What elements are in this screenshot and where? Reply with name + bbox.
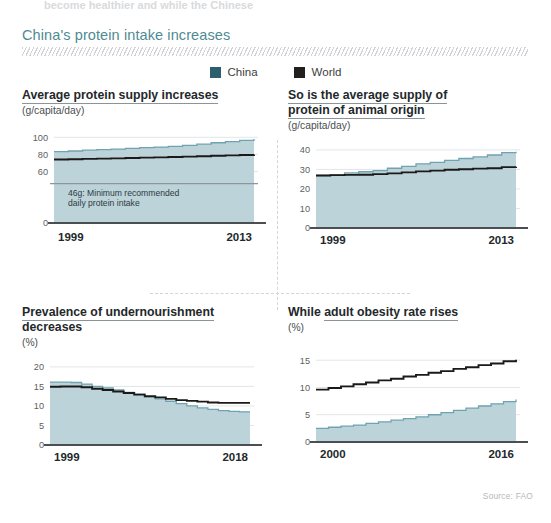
plot-area-undernourishment: 0510152019992018 <box>22 355 272 467</box>
legend-swatch-world <box>294 67 305 78</box>
plot-svg-animal-protein: 01020304019992013 <box>288 138 538 250</box>
chart-title-undernourishment: Prevalence of undernourishment decreases <box>22 305 272 335</box>
svg-text:10: 10 <box>300 383 310 393</box>
infographic-page: become healthier and while the Chinese C… <box>0 0 551 523</box>
source-note: Source: FAO <box>483 491 533 501</box>
svg-text:80: 80 <box>38 150 48 160</box>
clipped-headline-remnant: become healthier and while the Chinese <box>44 0 344 9</box>
svg-text:2013: 2013 <box>488 234 514 246</box>
legend-swatch-china <box>210 67 221 78</box>
chart-title-protein-supply: Average protein supply increases <box>22 88 272 103</box>
svg-text:0: 0 <box>305 223 310 233</box>
legend-label-china: China <box>228 66 258 78</box>
legend: China World <box>0 64 551 80</box>
page-title: China's protein intake increases <box>22 27 230 43</box>
legend-item-world: World <box>294 66 342 78</box>
chart-title-obesity: While adult obesity rate rises <box>288 305 538 320</box>
svg-text:1999: 1999 <box>58 231 84 243</box>
chart-units-protein-supply: (g/capita/day) <box>22 105 272 117</box>
plot-area-protein-supply: 0608010019992013 46g: Minimum recommende… <box>22 123 272 248</box>
plot-area-animal-protein: 01020304019992013 <box>288 138 538 250</box>
svg-text:15: 15 <box>300 356 310 366</box>
svg-text:60: 60 <box>38 167 48 177</box>
svg-text:5: 5 <box>305 410 310 420</box>
svg-text:40: 40 <box>300 145 310 155</box>
svg-text:10: 10 <box>300 204 310 214</box>
svg-text:20: 20 <box>34 362 44 372</box>
chart-panel-obesity: While adult obesity rate rises (%) 05101… <box>288 305 538 490</box>
plot-svg-obesity: 05101520002016 <box>288 340 538 465</box>
vertical-dashed-divider <box>277 140 278 310</box>
chart-panel-undernourishment: Prevalence of undernourishment decreases… <box>22 305 272 490</box>
legend-item-china: China <box>210 66 258 78</box>
legend-label-world: World <box>312 66 342 78</box>
svg-text:0: 0 <box>305 437 310 447</box>
svg-text:2000: 2000 <box>320 448 346 460</box>
svg-text:10: 10 <box>34 401 44 411</box>
chart-title-animal-protein: So is the average supply of protein of a… <box>288 88 538 118</box>
svg-text:1999: 1999 <box>54 451 80 463</box>
svg-text:20: 20 <box>300 184 310 194</box>
annotation-46g-line1: 46g: Minimum recommended <box>68 188 179 199</box>
svg-text:2016: 2016 <box>488 448 514 460</box>
plot-svg-undernourishment: 0510152019992018 <box>22 355 272 467</box>
chart-units-undernourishment: (%) <box>22 337 272 349</box>
svg-text:5: 5 <box>39 421 44 431</box>
chart-panel-protein-supply: Average protein supply increases (g/capi… <box>22 88 272 273</box>
svg-text:2013: 2013 <box>226 231 252 243</box>
svg-text:1999: 1999 <box>320 234 346 246</box>
hatched-divider <box>22 47 528 56</box>
chart-units-animal-protein: (g/capita/day) <box>288 120 538 132</box>
chart-units-obesity: (%) <box>288 322 538 334</box>
svg-text:2018: 2018 <box>222 451 248 463</box>
svg-text:0: 0 <box>39 440 44 450</box>
plot-area-obesity: 05101520002016 <box>288 340 538 465</box>
annotation-46g-line2: daily protein intake <box>68 198 140 209</box>
svg-text:100: 100 <box>33 133 48 143</box>
horizontal-dashed-divider <box>150 293 410 294</box>
svg-text:15: 15 <box>34 382 44 392</box>
plot-svg-protein-supply: 0608010019992013 <box>22 123 272 248</box>
svg-text:0: 0 <box>43 218 48 228</box>
chart-panel-animal-protein: So is the average supply of protein of a… <box>288 88 538 273</box>
svg-text:30: 30 <box>300 165 310 175</box>
